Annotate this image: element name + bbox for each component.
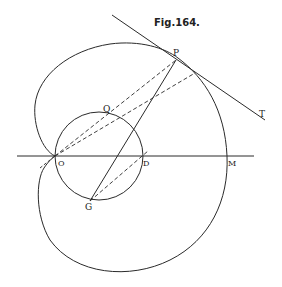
cardioid-diagram: Fig.164. P T Q O D M G: [0, 0, 282, 287]
tangent-line: [112, 15, 265, 120]
cardioid-curve: [35, 43, 227, 272]
label-P: P: [173, 48, 179, 58]
dashed-line-OP: [55, 60, 176, 156]
dashed-line-GD: [90, 151, 148, 201]
label-T: T: [259, 109, 265, 119]
label-O: O: [58, 159, 65, 168]
label-Q: Q: [103, 104, 110, 114]
dashed-line-O-extension: [40, 156, 55, 168]
label-D: D: [143, 159, 149, 168]
label-G: G: [85, 202, 92, 212]
line-PG: [90, 60, 176, 201]
figure-title: Fig.164.: [154, 17, 200, 28]
label-M: M: [228, 159, 236, 168]
